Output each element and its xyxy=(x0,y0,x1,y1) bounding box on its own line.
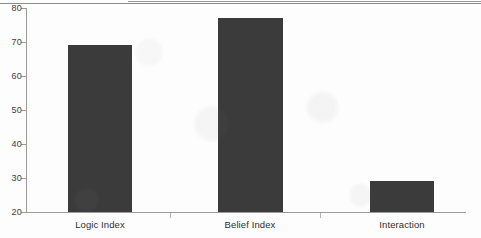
y-axis-tick-label: 50 xyxy=(0,105,22,115)
y-axis-tick-label: 70 xyxy=(0,37,22,47)
x-axis-category-label-logic-index: Logic Index xyxy=(50,219,150,231)
x-axis-category-separator xyxy=(320,213,321,218)
y-axis-tick-label: 30 xyxy=(0,173,22,183)
page-rule-line xyxy=(0,3,481,4)
bar-interaction[interactable] xyxy=(370,181,434,212)
bar-belief-index[interactable] xyxy=(218,18,283,212)
page-rule-line-secondary xyxy=(128,1,481,2)
x-axis-category-label-belief-index: Belief Index xyxy=(200,219,300,231)
bar-chart-figure: 80 70 60 50 40 30 20 Logic Index Belief … xyxy=(0,0,481,238)
x-axis-category-separator xyxy=(170,213,171,218)
x-axis-category-label-interaction: Interaction xyxy=(352,219,452,231)
x-axis-line xyxy=(26,212,466,213)
bar-logic-index[interactable] xyxy=(68,45,132,212)
y-axis-line xyxy=(26,8,27,213)
y-axis-tick-label: 60 xyxy=(0,71,22,81)
y-axis-tick-label: 20 xyxy=(0,207,22,217)
y-axis-tick-label: 80 xyxy=(0,3,22,13)
y-axis-tick-label: 40 xyxy=(0,139,22,149)
